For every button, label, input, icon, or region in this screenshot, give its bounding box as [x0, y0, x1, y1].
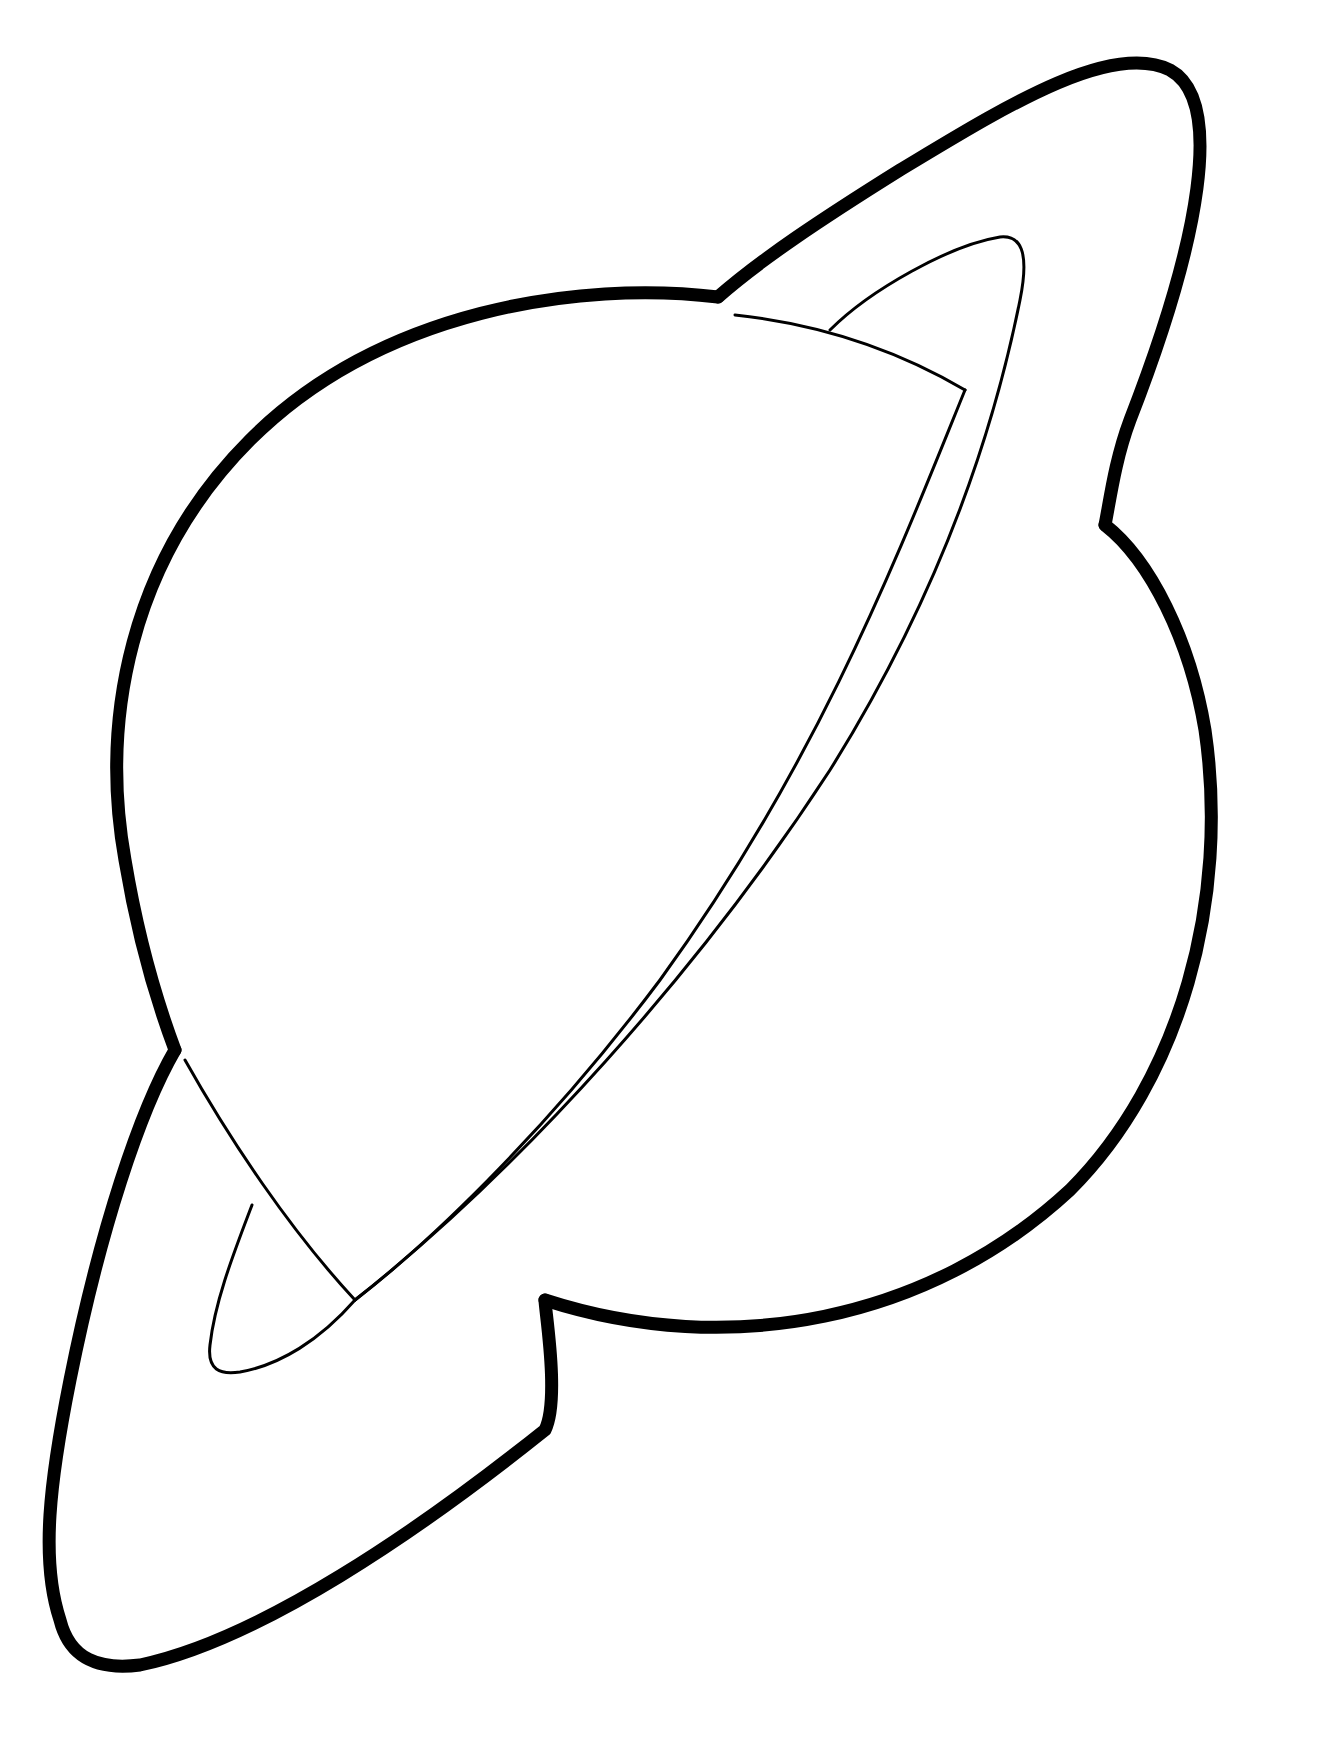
planet-drawing — [0, 0, 1322, 1748]
planet-top-edge-behind-ring — [735, 315, 965, 390]
ring-outer-top — [718, 63, 1200, 525]
planet-bottom-edge-behind-ring — [185, 1060, 355, 1300]
ring-outer-bottom — [49, 1050, 552, 1666]
ring-band-lower-edge — [355, 237, 1024, 1300]
planet-body-left-arc — [117, 293, 718, 1050]
ring-inner-hole-bottom — [210, 1205, 355, 1373]
planet-body-right-arc — [545, 525, 1211, 1327]
ring-band-upper-edge — [355, 390, 965, 1300]
